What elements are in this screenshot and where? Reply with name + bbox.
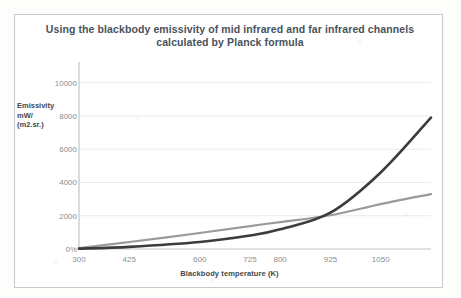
series-line bbox=[79, 194, 431, 248]
plot-area: Emissivity mW/ (m2.sr.) 0%20004000600080… bbox=[15, 15, 444, 289]
series-line bbox=[79, 118, 431, 249]
chart-frame: Using the blackbody emissivity of mid in… bbox=[14, 14, 443, 288]
plot-svg bbox=[15, 15, 444, 289]
